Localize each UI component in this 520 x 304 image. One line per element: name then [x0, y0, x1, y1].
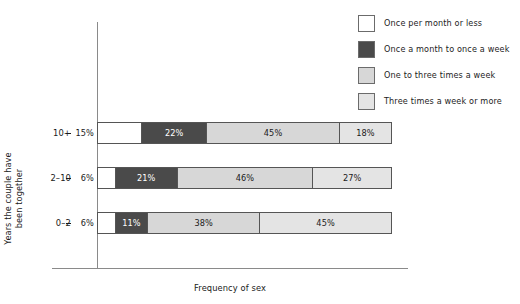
y-axis-title-line1: Years the couple have — [3, 152, 14, 244]
legend-item-label: Once per month or less — [384, 18, 482, 28]
bar-segment[interactable]: 21% — [115, 167, 177, 189]
bar-segment[interactable]: 45% — [259, 212, 392, 234]
bar-row: 2–10 6% 21% 46% 27% — [97, 167, 392, 189]
legend-item-label: Once a month to once a week — [384, 44, 510, 54]
bar-segment-value: 21% — [137, 174, 156, 183]
bar-segment[interactable]: 38% — [147, 212, 259, 234]
bar-segment-value: 6% — [81, 219, 94, 228]
bar-segment-value: 18% — [356, 129, 375, 138]
value-leader-line — [66, 178, 71, 179]
bar-segment-value: 38% — [194, 219, 213, 228]
y-axis-title: Years the couple have been together — [2, 128, 24, 268]
bar-segment-value: 6% — [81, 174, 94, 183]
value-leader-line — [66, 133, 71, 134]
legend-item-label: Three times a week or more — [384, 96, 502, 106]
bar-segment-value: 15% — [76, 129, 95, 138]
bar-segment[interactable]: 11% — [115, 212, 147, 234]
bar-segment-value: 11% — [122, 219, 141, 228]
bar-segment[interactable]: 6% — [97, 167, 115, 189]
plot-area: 10+ 15% 22% 45% 18% 2–10 6% 21% — [97, 22, 392, 268]
value-leader-line — [66, 223, 71, 224]
bar-segment-value: 46% — [236, 174, 255, 183]
bar-segment-value: 45% — [316, 219, 335, 228]
legend-item-label: One to three times a week — [384, 70, 495, 80]
bar-row: 0–2 6% 11% 38% 45% — [97, 212, 392, 234]
bar-segment[interactable]: 18% — [339, 122, 392, 144]
bar-segment[interactable]: 27% — [312, 167, 392, 189]
bar-segment[interactable]: 22% — [141, 122, 206, 144]
bar-row: 10+ 15% 22% 45% 18% — [97, 122, 392, 144]
bar-segment[interactable]: 46% — [177, 167, 313, 189]
bar-segment[interactable]: 45% — [206, 122, 339, 144]
bar-segment[interactable]: 15% — [97, 122, 141, 144]
bar-segment-value: 45% — [264, 129, 283, 138]
x-axis-line — [52, 268, 408, 269]
y-axis-title-line2: been together — [13, 152, 24, 244]
x-axis-title: Frequency of sex — [52, 283, 408, 293]
bar-segment-value: 22% — [165, 129, 184, 138]
bar-segment[interactable]: 6% — [97, 212, 115, 234]
stacked-bar-chart: Once per month or less Once a month to o… — [0, 0, 520, 304]
bar-segment-value: 27% — [343, 174, 362, 183]
